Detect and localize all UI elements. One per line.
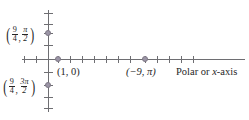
close-paren: ) [30,28,34,42]
point-one-zero[interactable] [55,56,61,62]
tick-v-up-4 [44,13,53,14]
label-point-neg-nine-pi: (−9, π) [126,67,156,78]
point-bottom[interactable] [45,82,51,88]
tick-h-right-4 [94,56,95,63]
open-paren: ( [3,80,7,94]
tick-h-right-3 [82,56,83,63]
tick-v-down-4 [44,108,53,109]
tick-v-up-1 [44,45,53,46]
close-paren: ) [31,80,35,94]
tick-h-right-10 [169,56,170,63]
label-point-one-zero: (1, 0) [57,67,80,78]
tick-h-right-6 [118,56,119,63]
axis-name-prefix: Polar or [176,66,212,77]
open-paren: ( [6,28,10,42]
tick-h-right-5 [106,56,107,63]
label-point-bottom: ( 9 4 , 3π 2 ) [2,78,36,95]
tick-h-right-12 [193,56,194,63]
tick-h-right-2 [70,56,71,63]
fraction-pi-over-two: π 2 [22,26,28,43]
label-polar-x-axis: Polar or x-axis [176,67,237,78]
polar-axis-figure: ( 9 4 , π 2 ) ( 9 4 , 3π 2 ) [0,0,249,120]
tick-h-left-1 [36,56,37,63]
fraction-nine-fourths: 9 4 [9,78,15,95]
comma: , [15,86,18,96]
fraction-nine-fourths: 9 4 [12,26,18,43]
tick-h-right-11 [181,56,182,63]
label-point-top: ( 9 4 , π 2 ) [5,26,35,43]
tick-v-down-1 [44,72,53,73]
tick-h-right-7 [130,56,131,63]
tick-v-down-3 [44,97,53,98]
tick-h-left-2 [24,56,25,63]
point-top[interactable] [45,30,51,36]
tick-h-right-9 [157,56,158,63]
comma: , [18,34,21,44]
point-neg-nine-pi[interactable] [142,56,148,62]
fraction-three-pi-over-two: 3π 2 [19,78,29,95]
axis-name-suffix: -axis [217,66,237,77]
tick-v-up-3 [44,24,53,25]
